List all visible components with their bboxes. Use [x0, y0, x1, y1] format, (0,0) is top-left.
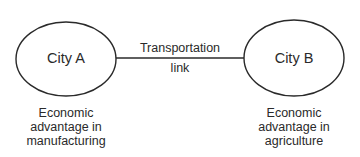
- city-b-caption-line3: agriculture: [234, 134, 354, 148]
- edge-label-line1: Transportation: [120, 41, 240, 55]
- city-a-caption-line1: Economic: [6, 106, 126, 120]
- city-a-label: City A: [26, 51, 106, 65]
- city-b-caption-line2: advantage in: [234, 120, 354, 134]
- city-a-caption-line2: advantage in: [6, 120, 126, 134]
- city-a-caption-line3: manufacturing: [6, 134, 126, 148]
- edge-label-line2: link: [120, 61, 240, 75]
- city-b-caption-line1: Economic: [234, 106, 354, 120]
- city-b-label: City B: [254, 51, 334, 65]
